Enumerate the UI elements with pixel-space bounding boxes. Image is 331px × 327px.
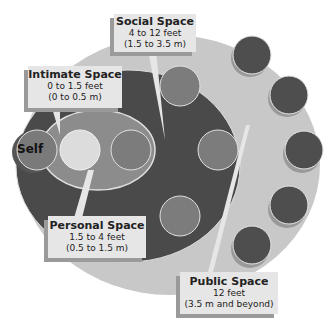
intimate-space-meters: (0 to 0.5 m) xyxy=(28,92,122,103)
personal-space-title: Personal Space xyxy=(48,219,146,232)
public-person xyxy=(270,76,308,114)
public-space-title: Public Space xyxy=(180,275,278,288)
personal-space-label: Personal Space 1.5 to 4 feet (0.5 to 1.5… xyxy=(48,216,146,258)
intimate-person xyxy=(60,130,100,170)
social-space-label: Social Space 4 to 12 feet (1.5 to 3.5 m) xyxy=(114,14,196,52)
social-person xyxy=(198,130,238,170)
self-label: Self xyxy=(17,142,43,156)
personal-space-meters: (0.5 to 1.5 m) xyxy=(48,243,146,254)
personal-person xyxy=(111,130,151,170)
public-person xyxy=(285,131,323,169)
public-person xyxy=(270,186,308,224)
social-person xyxy=(160,66,200,106)
public-person xyxy=(233,36,271,74)
social-space-feet: 4 to 12 feet xyxy=(114,28,196,39)
intimate-space-label: Intimate Space 0 to 1.5 feet (0 to 0.5 m… xyxy=(28,66,122,108)
public-space-meters: (3.5 m and beyond) xyxy=(180,299,278,310)
social-person xyxy=(160,196,200,236)
social-space-title: Social Space xyxy=(114,15,196,28)
public-person xyxy=(233,226,271,264)
personal-space-feet: 1.5 to 4 feet xyxy=(48,232,146,243)
intimate-space-title: Intimate Space xyxy=(28,68,122,81)
intimate-space-feet: 0 to 1.5 feet xyxy=(28,81,122,92)
social-space-meters: (1.5 to 3.5 m) xyxy=(114,39,196,50)
public-space-feet: 12 feet xyxy=(180,288,278,299)
public-space-label: Public Space 12 feet (3.5 m and beyond) xyxy=(180,272,278,314)
